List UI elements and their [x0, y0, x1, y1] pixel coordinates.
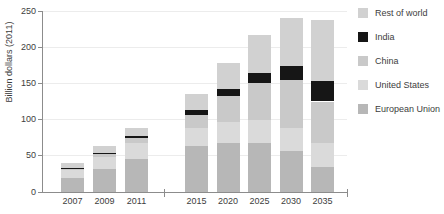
- bar-2035-segment-european-union: [311, 167, 334, 192]
- x-axis-end-tick: [347, 189, 348, 197]
- bar-2035-segment-rest-of-world: [311, 20, 334, 81]
- bar-2011: [125, 0, 148, 192]
- bar-2009-segment-european-union: [93, 169, 116, 192]
- legend-swatch-european-union: [358, 104, 368, 114]
- y-tick-label-100: 100: [10, 115, 36, 124]
- bar-2030-segment-rest-of-world: [280, 18, 303, 66]
- y-tick-label-150: 150: [10, 79, 36, 88]
- legend-item-china: China: [358, 56, 399, 66]
- y-tick-label-200: 200: [10, 43, 36, 52]
- legend-item-united-states: United States: [358, 80, 429, 90]
- legend-label-united-states: United States: [375, 80, 429, 90]
- bar-2030-segment-european-union: [280, 151, 303, 192]
- bar-2020-segment-india: [217, 89, 240, 96]
- x-axis-break-tick: [164, 189, 165, 197]
- bar-2007-segment-european-union: [61, 178, 84, 192]
- bar-2025-segment-china: [248, 83, 271, 119]
- y-axis-title: Billion dollars (2011): [4, 22, 14, 103]
- y-tick-label-0: 0: [10, 188, 36, 197]
- bar-2020: [217, 0, 240, 192]
- x-tick-label-2009: 2009: [87, 197, 123, 206]
- bar-2030-segment-united-states: [280, 128, 303, 152]
- bar-2025-segment-united-states: [248, 120, 271, 143]
- bar-2011-segment-india: [125, 136, 148, 138]
- bar-2007-segment-china: [61, 169, 84, 170]
- y-tick-label-50: 50: [10, 151, 36, 160]
- bar-2015-segment-china: [185, 115, 208, 129]
- bar-2035-segment-india: [311, 81, 334, 101]
- bar-2020-segment-china: [217, 96, 240, 121]
- bar-2030-segment-india: [280, 66, 303, 80]
- x-tick-label-2011: 2011: [119, 197, 155, 206]
- bar-2025-segment-rest-of-world: [248, 35, 271, 73]
- bar-2009-segment-china: [93, 154, 116, 157]
- bar-2007-segment-rest-of-world: [61, 163, 84, 168]
- bar-2009: [93, 0, 116, 192]
- legend-label-european-union: European Union: [375, 104, 440, 114]
- bar-2015: [185, 0, 208, 192]
- legend-label-china: China: [375, 56, 399, 66]
- bar-2020-segment-rest-of-world: [217, 63, 240, 89]
- legend-swatch-india: [358, 32, 368, 42]
- legend-item-india: India: [358, 32, 395, 42]
- bar-2007: [61, 0, 84, 192]
- bar-2035: [311, 0, 334, 192]
- x-axis-line: [42, 192, 348, 193]
- bar-2035-segment-united-states: [311, 143, 334, 166]
- bar-2009-segment-rest-of-world: [93, 146, 116, 153]
- bar-2007-segment-united-states: [61, 170, 84, 178]
- bar-2011-segment-european-union: [125, 159, 148, 192]
- bar-2015-segment-india: [185, 110, 208, 114]
- legend-label-india: India: [375, 32, 395, 42]
- legend-item-european-union: European Union: [358, 104, 440, 114]
- stacked-bar-chart: Billion dollars (2011) 05010015020025020…: [0, 0, 444, 214]
- bar-2009-segment-united-states: [93, 157, 116, 169]
- bar-2035-segment-china: [311, 102, 334, 144]
- bar-2015-segment-european-union: [185, 146, 208, 192]
- bar-2025-segment-european-union: [248, 143, 271, 192]
- bar-2030: [280, 0, 303, 192]
- legend-swatch-rest-of-world: [358, 8, 368, 18]
- legend-swatch-china: [358, 56, 368, 66]
- bar-2025: [248, 0, 271, 192]
- bar-2015-segment-rest-of-world: [185, 94, 208, 111]
- bar-2020-segment-european-union: [217, 143, 240, 192]
- legend-label-rest-of-world: Rest of world: [375, 8, 428, 18]
- bar-2015-segment-united-states: [185, 128, 208, 146]
- y-axis-line: [42, 11, 43, 193]
- bar-2020-segment-united-states: [217, 122, 240, 144]
- bar-2025-segment-india: [248, 73, 271, 83]
- bar-2011-segment-rest-of-world: [125, 128, 148, 135]
- bar-2011-segment-united-states: [125, 143, 148, 160]
- x-tick-label-2035: 2035: [305, 197, 341, 206]
- legend-swatch-united-states: [358, 80, 368, 90]
- bar-2009-segment-india: [93, 153, 116, 154]
- y-tick-label-250: 250: [10, 7, 36, 16]
- bar-2030-segment-china: [280, 80, 303, 128]
- legend-item-rest-of-world: Rest of world: [358, 8, 428, 18]
- bar-2011-segment-china: [125, 138, 148, 143]
- x-tick-label-2007: 2007: [55, 197, 91, 206]
